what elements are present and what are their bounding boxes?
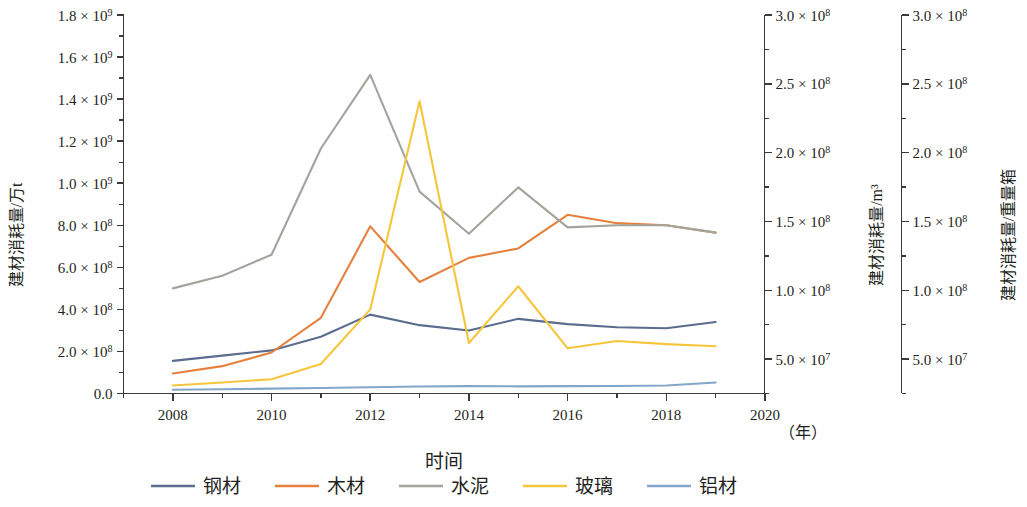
y-tick-label: 1.5 × 108 (776, 213, 831, 230)
y-tick-label: 3.0 × 108 (776, 7, 831, 24)
x-axis-tick-labels: 2008201020122014201620182020 (158, 407, 780, 423)
y-tick-label: 4.0 × 108 (58, 301, 113, 318)
series-line-glass (173, 101, 716, 385)
x-axis-unit-label: （年） (779, 424, 827, 441)
chart-legend: 钢材木材水泥玻璃铝材 (151, 476, 737, 497)
x-axis-title: 时间 (425, 451, 463, 472)
y-tick-label: 5.0 × 107 (913, 351, 968, 368)
right-axis-ticks (902, 15, 909, 394)
left-axis-tick-labels: 0.02.0 × 1084.0 × 1086.0 × 1088.0 × 1081… (58, 7, 113, 403)
middle-axis-title: 建材消耗量/m³ (868, 184, 885, 286)
series-line-wood (173, 215, 716, 374)
y-tick-label: 3.0 × 108 (913, 7, 968, 24)
middle-y-axis: 5.0 × 1071.0 × 1081.5 × 1082.0 × 1082.5 … (765, 7, 886, 394)
y-tick-label: 1.4 × 109 (58, 91, 113, 108)
legend-label-4: 铝材 (699, 476, 737, 497)
legend-label-1: 木材 (327, 476, 365, 497)
chart-figure: 0.02.0 × 1084.0 × 1086.0 × 1088.0 × 1081… (0, 0, 1027, 507)
series-layer (173, 75, 716, 390)
legend-label-3: 玻璃 (575, 476, 613, 497)
legend-label-0: 钢材 (203, 476, 241, 497)
y-tick-label: 1.0 × 108 (776, 282, 831, 299)
y-tick-label: 2.0 × 108 (776, 144, 831, 161)
x-axis: 2008201020122014201620182020 （年） 时间 (123, 394, 827, 473)
y-tick-label: 5.0 × 107 (776, 351, 831, 368)
middle-axis-tick-labels: 5.0 × 1071.0 × 1081.5 × 1082.0 × 1082.5 … (776, 7, 831, 368)
y-tick-label: 2.5 × 108 (913, 75, 968, 92)
left-axis-ticks (117, 15, 124, 394)
x-tick-label: 2010 (257, 407, 287, 423)
y-tick-label: 8.0 × 108 (58, 217, 113, 234)
x-tick-label: 2016 (553, 407, 584, 423)
multi-axis-line-chart: 0.02.0 × 1084.0 × 1086.0 × 1088.0 × 1081… (0, 0, 1027, 507)
left-y-axis: 0.02.0 × 1084.0 × 1086.0 × 1088.0 × 1081… (8, 7, 124, 403)
y-tick-label: 2.0 × 108 (913, 144, 968, 161)
middle-axis-ticks (765, 15, 772, 394)
series-line-steel (173, 315, 716, 361)
x-tick-label: 2018 (651, 407, 681, 423)
y-tick-label: 0.0 (94, 386, 113, 402)
series-line-cement (173, 75, 716, 288)
x-axis-ticks (124, 394, 766, 401)
x-tick-label: 2020 (750, 407, 780, 423)
right-axis-title: 建材消耗量/重量箱 (1000, 169, 1017, 301)
right-y-axis: 5.0 × 1071.0 × 1081.5 × 1082.0 × 1082.5 … (902, 7, 1018, 394)
x-tick-label: 2008 (158, 407, 188, 423)
legend-label-2: 水泥 (451, 476, 489, 497)
y-tick-label: 1.0 × 108 (913, 282, 968, 299)
y-tick-label: 2.0 × 108 (58, 343, 113, 360)
y-tick-label: 1.2 × 109 (58, 133, 113, 150)
right-axis-tick-labels: 5.0 × 1071.0 × 1081.5 × 1082.0 × 1082.5 … (913, 7, 968, 368)
x-tick-label: 2014 (454, 407, 485, 423)
y-tick-label: 1.6 × 109 (58, 49, 113, 66)
y-tick-label: 2.5 × 108 (776, 75, 831, 92)
y-tick-label: 6.0 × 108 (58, 259, 113, 276)
series-line-aluminum (173, 383, 716, 390)
x-tick-label: 2012 (355, 407, 385, 423)
y-tick-label: 1.5 × 108 (913, 213, 968, 230)
y-tick-label: 1.0 × 109 (58, 175, 113, 192)
left-axis-title: 建材消耗量/万t (8, 182, 25, 287)
y-tick-label: 1.8 × 109 (58, 7, 113, 24)
